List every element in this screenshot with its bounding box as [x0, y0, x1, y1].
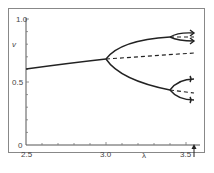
y-axis-label: v [12, 40, 17, 49]
x-tick-label-30: 3.0 [100, 150, 112, 159]
y-tick-label-05: 0.5 [12, 78, 24, 87]
chart-canvas: 1.0 0.5 0 v 2.5 3.0 3.5 λ [0, 0, 214, 173]
chart-frame [9, 9, 205, 153]
x-tick-label-35: 3.5 [180, 150, 192, 159]
x-tick-label-25: 2.5 [21, 150, 33, 159]
stable-branches [26, 30, 194, 103]
y-tick-label-1: 1.0 [16, 15, 28, 24]
x-axis-label: λ [142, 151, 146, 160]
bifurcation-chart: 1.0 0.5 0 v 2.5 3.0 3.5 λ [0, 0, 214, 173]
y-tick-label-0: 0 [18, 141, 23, 150]
